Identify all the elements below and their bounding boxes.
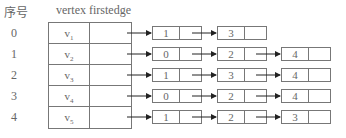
arrow-icon [127, 33, 280, 117]
pointer-arrows [0, 0, 346, 138]
